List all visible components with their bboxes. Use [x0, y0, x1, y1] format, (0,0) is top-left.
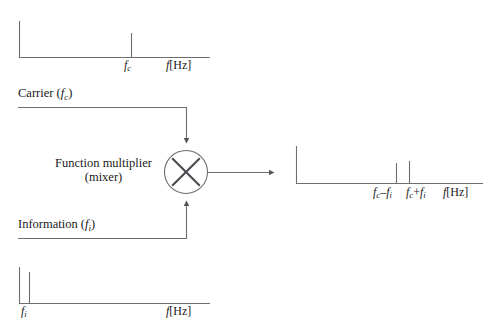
upper-sideband-tick-label: fc+fi: [406, 186, 426, 201]
information-spectrum-tick-label: fi: [21, 305, 27, 320]
carrier-input-connector: [18, 108, 187, 144]
mixer-label: Function multiplier (mixer): [46, 156, 161, 184]
carrier-spectrum-tick-label: fc: [124, 59, 131, 74]
information-spectrum-axes: [20, 267, 211, 304]
output-spectrum-axis-label: f[Hz]: [443, 186, 468, 199]
carrier-spectrum-axes: [20, 21, 211, 58]
mixer-label-line2: (mixer): [46, 170, 161, 184]
lower-sideband-tick-label: fc–fi: [373, 186, 392, 201]
carrier-input-label: Carrier (fc): [18, 86, 72, 102]
diagram-canvas: fc f[Hz] Carrier (fc) Function multiplie…: [0, 0, 488, 332]
information-input-label: Information (fi): [18, 217, 95, 233]
mixer-symbol: [165, 151, 208, 194]
carrier-spectrum-axis-label: f[Hz]: [166, 59, 191, 72]
information-spectrum-axis-label: f[Hz]: [166, 305, 191, 318]
output-spectrum-axes: [297, 146, 484, 184]
mixer-label-line1: Function multiplier: [46, 156, 161, 170]
